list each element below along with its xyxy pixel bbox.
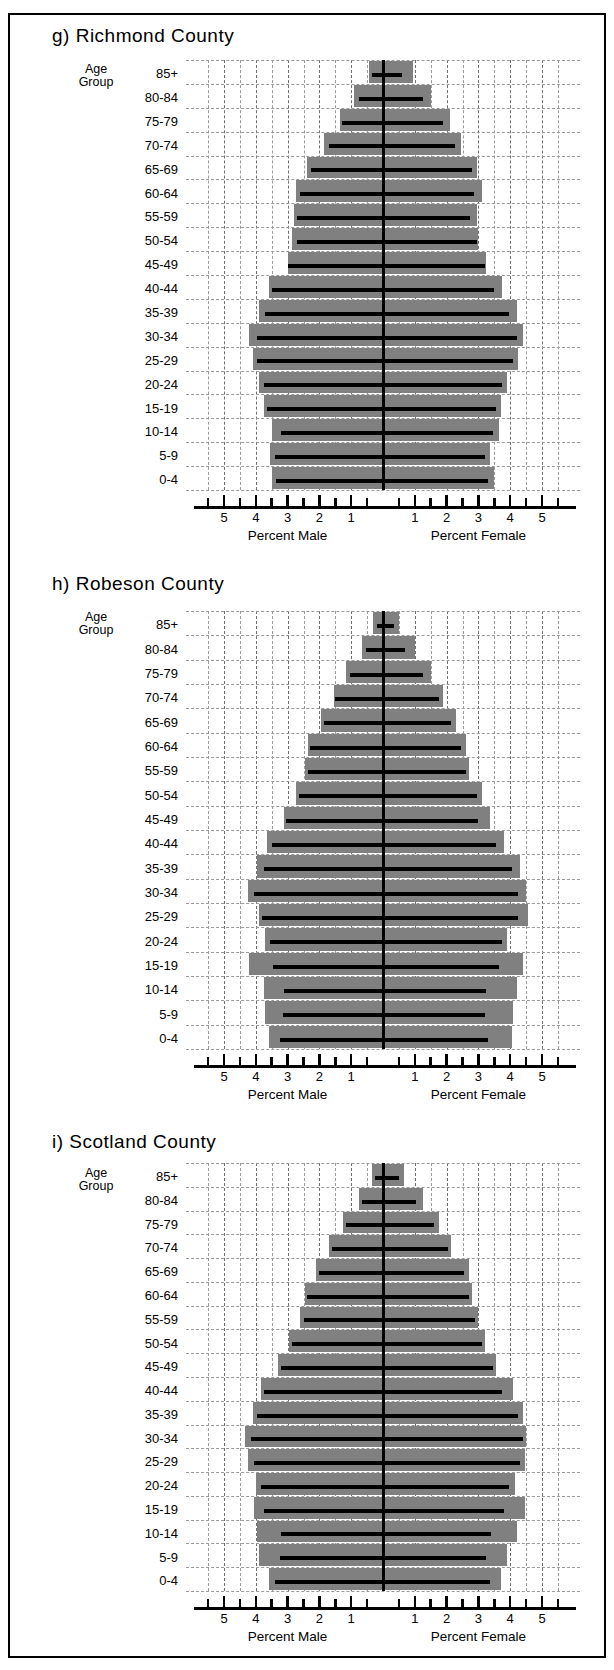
- x-tick-label-male: 3: [284, 1611, 291, 1626]
- reference-line: [284, 989, 486, 993]
- age-group-tick-label: 80-84: [116, 641, 178, 656]
- x-axis-tick: [334, 1599, 337, 1607]
- chart-scotland: 5432112345Percent MalePercent Female85+8…: [186, 1163, 580, 1620]
- x-axis-tick: [302, 1599, 305, 1607]
- age-group-tick-label: 25-29: [116, 1454, 178, 1469]
- x-axis-tick: [525, 1057, 528, 1065]
- age-group-caption-line2: Group: [79, 75, 114, 89]
- reference-line: [350, 673, 423, 677]
- age-group-tick-label: 85+: [116, 617, 178, 632]
- x-axis-tick: [207, 1057, 210, 1065]
- chart-robeson: 5432112345Percent MalePercent Female85+8…: [186, 611, 580, 1078]
- x-axis-tick: [525, 1599, 528, 1607]
- x-axis-tick: [429, 1057, 432, 1065]
- x-axis-tick: [350, 1054, 353, 1065]
- age-group-tick-label: 0-4: [116, 1031, 178, 1046]
- age-group-caption-line2: Group: [79, 623, 114, 637]
- reference-line: [251, 1437, 523, 1441]
- x-tick-label-male: 4: [252, 1069, 259, 1084]
- age-group-tick-label: 10-14: [116, 424, 178, 439]
- x-axis-tick: [255, 1596, 258, 1607]
- age-group-tick-label: 0-4: [116, 1573, 178, 1588]
- reference-line: [281, 1532, 491, 1536]
- figure-frame: g) Richmond County Age Group 5432112345P…: [8, 13, 606, 1658]
- reference-line: [281, 1366, 492, 1370]
- x-tick-label-male: 5: [220, 510, 227, 525]
- age-group-tick-label: 30-34: [116, 328, 178, 343]
- age-group-tick-label: 20-24: [116, 933, 178, 948]
- age-group-tick-label: 75-79: [116, 113, 178, 128]
- age-group-tick-label: 75-79: [116, 1216, 178, 1231]
- age-group-tick-label: 85+: [116, 1169, 178, 1184]
- reference-line: [265, 312, 508, 316]
- age-group-tick-label: 45-49: [116, 812, 178, 827]
- x-axis-tick: [398, 1057, 401, 1065]
- x-axis-tick: [477, 1596, 480, 1607]
- x-axis-tick: [350, 495, 353, 506]
- x-tick-label-female: 1: [411, 510, 418, 525]
- age-group-tick-label: 35-39: [116, 305, 178, 320]
- x-axis-tick: [557, 1057, 560, 1065]
- x-axis-tick: [509, 1596, 512, 1607]
- x-axis-tick: [223, 1596, 226, 1607]
- age-group-tick-label: 45-49: [116, 1359, 178, 1374]
- reference-line: [332, 1247, 448, 1251]
- panel-richmond: g) Richmond County Age Group 5432112345P…: [10, 15, 604, 563]
- age-group-tick-label: 10-14: [116, 1525, 178, 1540]
- x-tick-label-female: 5: [538, 1069, 545, 1084]
- x-tick-label-male: 4: [252, 510, 259, 525]
- x-axis-tick: [207, 1599, 210, 1607]
- x-axis-tick: [557, 498, 560, 506]
- axis-caption-percent-female: Percent Female: [431, 1087, 526, 1102]
- x-axis-tick: [286, 1596, 289, 1607]
- age-group-tick-label: 60-64: [116, 1287, 178, 1302]
- x-axis-tick: [366, 498, 369, 506]
- reference-line: [300, 192, 473, 196]
- x-axis-tick: [270, 1599, 273, 1607]
- reference-line: [257, 359, 513, 363]
- x-axis-tick: [223, 1054, 226, 1065]
- x-axis-tick: [429, 1599, 432, 1607]
- x-axis-tick: [414, 495, 417, 506]
- reference-line: [254, 892, 518, 896]
- x-axis-tick: [334, 498, 337, 506]
- x-axis-tick: [366, 1057, 369, 1065]
- reference-line: [281, 431, 492, 435]
- x-axis-tick: [270, 498, 273, 506]
- age-group-tick-label: 10-14: [116, 982, 178, 997]
- x-axis-tick: [477, 1054, 480, 1065]
- x-axis-tick: [493, 1057, 496, 1065]
- x-tick-label-female: 2: [443, 1611, 450, 1626]
- age-group-tick-label: 40-44: [116, 1383, 178, 1398]
- age-group-tick-label: 55-59: [116, 1311, 178, 1326]
- reference-line: [304, 1318, 476, 1322]
- x-axis-tick: [255, 495, 258, 506]
- x-axis-tick: [366, 1599, 369, 1607]
- center-axis-line: [382, 611, 385, 1049]
- x-tick-label-female: 3: [475, 1611, 482, 1626]
- age-group-caption-line1: Age: [85, 62, 107, 76]
- reference-line: [299, 794, 477, 798]
- x-tick-label-male: 1: [348, 1611, 355, 1626]
- reference-line: [359, 97, 423, 101]
- reference-line: [329, 144, 455, 148]
- x-tick-label-female: 4: [507, 1069, 514, 1084]
- reference-line: [335, 697, 438, 701]
- figure-page: g) Richmond County Age Group 5432112345P…: [0, 0, 614, 1670]
- x-axis-tick: [239, 1057, 242, 1065]
- x-axis-tick: [398, 1599, 401, 1607]
- reference-line: [297, 240, 477, 244]
- x-axis-tick: [350, 1596, 353, 1607]
- x-tick-label-male: 1: [348, 510, 355, 525]
- age-group-tick-label: 70-74: [116, 137, 178, 152]
- age-group-tick-label: 55-59: [116, 209, 178, 224]
- x-axis-tick: [461, 1599, 464, 1607]
- x-tick-label-male: 1: [348, 1069, 355, 1084]
- age-group-tick-label: 65-69: [116, 161, 178, 176]
- x-axis-tick: [239, 498, 242, 506]
- x-tick-label-female: 5: [538, 1611, 545, 1626]
- x-tick-label-male: 2: [316, 510, 323, 525]
- x-tick-label-female: 2: [443, 510, 450, 525]
- reference-line: [270, 940, 502, 944]
- age-group-tick-label: 15-19: [116, 400, 178, 415]
